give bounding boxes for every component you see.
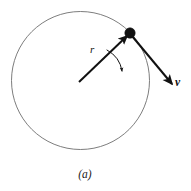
radius-vector-label: r: [90, 44, 94, 55]
figure-container: r v (a): [0, 0, 191, 191]
velocity-vector-label: v: [175, 77, 180, 89]
figure-caption: (a): [0, 169, 170, 181]
radius-vector-arrow-icon: [79, 36, 127, 82]
velocity-vector-arrow-icon: [132, 36, 172, 84]
particle-dot-icon: [125, 28, 135, 38]
circular-motion-diagram: [0, 0, 191, 191]
